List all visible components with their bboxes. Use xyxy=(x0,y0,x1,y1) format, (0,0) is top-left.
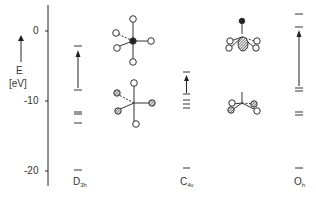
axis-label-unit: [eV] xyxy=(9,79,27,89)
column-label-c4v: C4v xyxy=(180,177,194,190)
oh-transition-arrow-icon xyxy=(297,30,302,86)
c4v-transition-arrow-icon xyxy=(184,75,189,93)
axis-tick-0: 0 xyxy=(33,26,39,36)
diagram-canvas xyxy=(0,0,316,197)
d3h-transition-arrow-icon xyxy=(76,50,81,88)
axis-label-e: E xyxy=(16,66,23,76)
energy-axis xyxy=(45,5,48,186)
molecule-d3h-ground-icon xyxy=(114,80,155,128)
axis-tick-minus20: -20 xyxy=(24,166,38,176)
energy-level-diagram: E [eV] 0 -10 -20 D3h C4v Oh xyxy=(0,0,316,197)
molecule-c4v-ground-icon xyxy=(228,92,260,114)
molecule-c4v-excited-icon xyxy=(226,18,260,51)
axis-tick-minus10: -10 xyxy=(24,96,38,106)
column-label-d3h: D3h xyxy=(73,177,87,190)
energy-direction-arrow-icon xyxy=(18,35,24,62)
molecule-d3h-excited-icon xyxy=(113,16,155,66)
column-label-oh: Oh xyxy=(294,177,305,190)
